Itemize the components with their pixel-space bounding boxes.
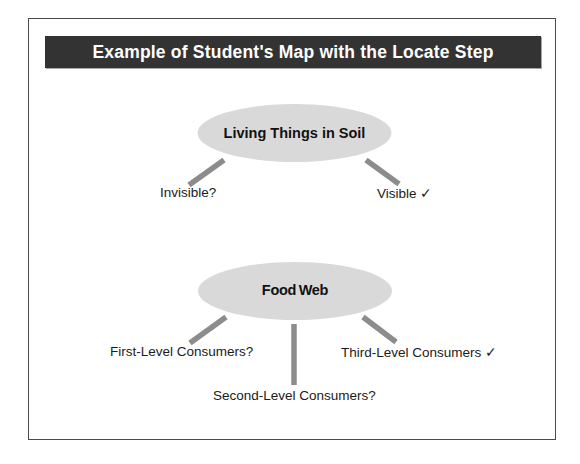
branch-label-third-level-consumers: Third-Level Consumers ✓ [341,344,497,360]
figure-page: Example of Student's Map with the Locate… [0,0,580,464]
connector-soil-visible [366,160,399,184]
branch-label-second-level-consumers: Second-Level Consumers? [213,388,376,403]
connector-foodweb-first-level [190,317,226,343]
branch-label-invisible: Invisible? [160,185,216,200]
branch-label-visible: Visible ✓ [377,185,432,201]
node-label-food-web: Food Web [198,282,392,298]
connector-soil-invisible [189,160,224,185]
node-label-living-things-in-soil: Living Things in Soil [197,125,392,141]
branch-label-first-level-consumers: First-Level Consumers? [110,344,253,359]
connector-foodweb-third-level [363,317,396,342]
